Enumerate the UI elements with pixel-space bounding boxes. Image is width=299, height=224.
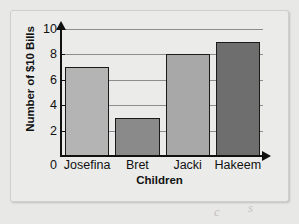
page-scribble-2: s (248, 200, 253, 216)
bar-jacki[interactable] (166, 54, 210, 156)
bar-group (62, 29, 263, 156)
y-tick-label-0: 0 (37, 158, 57, 172)
bar-josefina[interactable] (65, 67, 109, 156)
y-tick-label-6: 6 (37, 73, 57, 87)
y-tick-label-4: 4 (37, 98, 57, 112)
x-axis-line (60, 155, 264, 157)
page-scribble-1: c (214, 204, 220, 220)
x-label-josefina: Josefina (62, 158, 112, 172)
x-axis-title: Children (57, 174, 262, 186)
x-label-jacki: Jacki (163, 158, 213, 172)
x-axis-category-labels: Josefina Bret Jacki Hakeem (62, 158, 263, 174)
y-axis-tick-labels: 10 8 6 4 2 (33, 29, 57, 156)
bar-chart: Number of $10 Bills 10 8 6 4 2 0 (11, 11, 290, 203)
bar-hakeem[interactable] (216, 42, 260, 156)
bar-slot-josefina (62, 29, 112, 156)
bar-slot-hakeem (213, 29, 263, 156)
y-tick-label-10: 10 (37, 22, 57, 36)
bar-slot-jacki (163, 29, 213, 156)
bar-bret[interactable] (115, 118, 159, 156)
y-tick-label-8: 8 (37, 47, 57, 61)
x-axis-arrow-icon (262, 151, 271, 161)
y-axis-arrow-icon (56, 21, 66, 30)
x-label-hakeem: Hakeem (213, 158, 263, 172)
x-label-bret: Bret (112, 158, 162, 172)
y-tick-label-2: 2 (37, 124, 57, 138)
bar-slot-bret (112, 29, 162, 156)
y-axis-line (60, 29, 62, 157)
scanned-page-panel: Number of $10 Bills 10 8 6 4 2 0 (10, 10, 289, 202)
